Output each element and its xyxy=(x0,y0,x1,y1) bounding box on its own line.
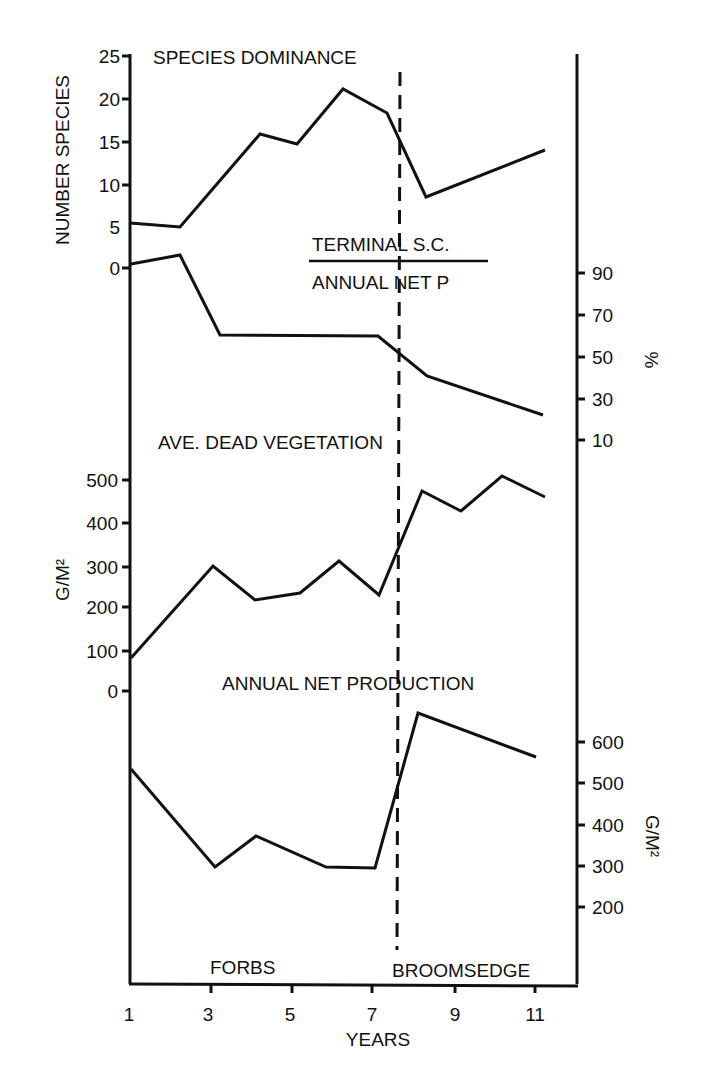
ratio-denominator: ANNUAL NET P xyxy=(312,272,449,293)
percent-y-label: % xyxy=(641,352,662,369)
x-tick-7: 7 xyxy=(367,1004,378,1025)
prod-tick-500: 500 xyxy=(592,773,624,794)
prod-tick-400: 400 xyxy=(592,815,624,836)
species-y-label: NUMBER SPECIES xyxy=(52,75,73,245)
succession-divider xyxy=(397,72,400,950)
production-line xyxy=(131,713,536,868)
dead-tick-400: 400 xyxy=(86,513,118,534)
percent-tick-70: 70 xyxy=(592,305,613,326)
dead-y-label: G/M² xyxy=(52,559,73,601)
production-ticks: 600 500 400 300 200 xyxy=(577,732,624,918)
species-ticks: 25 20 15 10 5 0 xyxy=(99,46,130,279)
succession-chart: 25 20 15 10 5 0 500 400 300 200 100 0 90… xyxy=(0,0,709,1082)
x-axis-label: YEARS xyxy=(346,1029,410,1050)
prod-title: ANNUAL NET PRODUCTION xyxy=(222,673,474,694)
x-ticks: 1 3 5 7 9 11 xyxy=(124,985,545,1025)
dead-veg-ticks: 500 400 300 200 100 0 xyxy=(86,470,130,702)
percent-ticks: 90 70 50 30 10 xyxy=(577,263,613,451)
percent-tick-30: 30 xyxy=(592,389,613,410)
species-line xyxy=(130,89,545,227)
x-tick-9: 9 xyxy=(450,1004,461,1025)
dead-tick-300: 300 xyxy=(86,557,118,578)
species-title: SPECIES DOMINANCE xyxy=(153,47,357,68)
species-tick-25: 25 xyxy=(99,46,120,67)
x-tick-5: 5 xyxy=(285,1004,296,1025)
ratio-numerator: TERMINAL S.C. xyxy=(312,234,450,255)
dead-tick-100: 100 xyxy=(86,641,118,662)
species-tick-20: 20 xyxy=(99,89,120,110)
prod-tick-600: 600 xyxy=(592,732,624,753)
x-tick-11: 11 xyxy=(525,1004,545,1025)
species-tick-15: 15 xyxy=(99,132,120,153)
x-tick-3: 3 xyxy=(203,1004,214,1025)
prod-tick-200: 200 xyxy=(592,897,624,918)
prod-y-label: G/M² xyxy=(642,815,663,857)
species-tick-0: 0 xyxy=(109,258,120,279)
forbs-label: FORBS xyxy=(210,957,275,978)
percent-tick-10: 10 xyxy=(592,430,613,451)
percent-tick-90: 90 xyxy=(592,263,613,284)
dead-tick-200: 200 xyxy=(86,597,118,618)
percent-tick-50: 50 xyxy=(592,347,613,368)
dead-veg-line xyxy=(131,476,545,658)
bottom-axis xyxy=(129,984,578,986)
species-tick-5: 5 xyxy=(109,217,120,238)
prod-tick-300: 300 xyxy=(592,856,624,877)
x-tick-1: 1 xyxy=(124,1004,135,1025)
dead-tick-500: 500 xyxy=(86,470,118,491)
dead-tick-0: 0 xyxy=(107,681,118,702)
broomsedge-label: BROOMSEDGE xyxy=(392,960,530,981)
dead-title: AVE. DEAD VEGETATION xyxy=(158,432,383,453)
species-tick-10: 10 xyxy=(99,175,120,196)
